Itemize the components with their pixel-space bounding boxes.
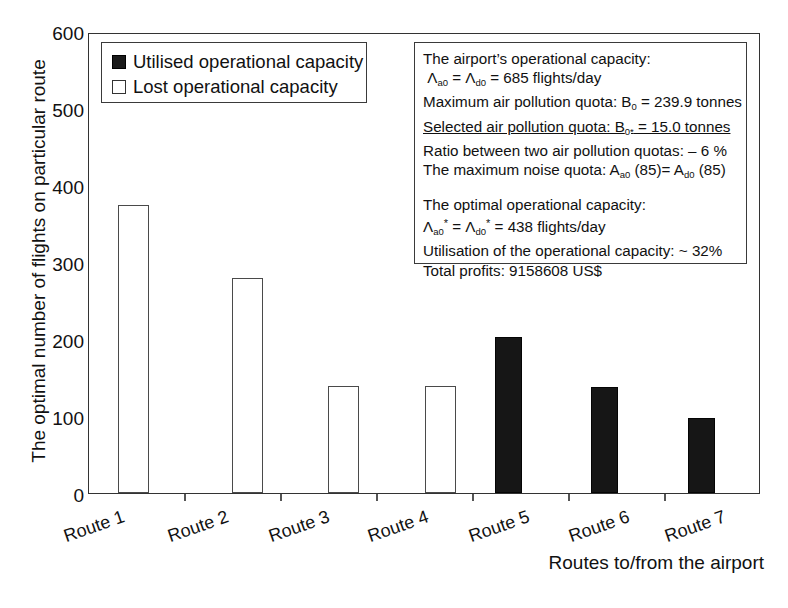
legend-item-utilised[interactable]: Utilised operational capacity	[112, 49, 366, 74]
subscript-a0: a0	[437, 77, 448, 88]
subscript-opt-d0: d0	[475, 226, 486, 237]
legend-swatch-hollow-icon	[112, 80, 126, 94]
legend-item-lost[interactable]: Lost operational capacity	[112, 74, 366, 99]
cropped-page-header	[0, 0, 788, 11]
info-line-lambda-operational: Λa0 = Λd0 = 685 flights/day	[423, 68, 739, 92]
x-tick-label-route-2: Route 2	[165, 506, 231, 546]
subscript-0-star: 0*	[625, 125, 634, 136]
y-tick-label-500: 500	[24, 101, 84, 120]
superscript-star-d: *	[486, 217, 490, 229]
x-tick-label-route-5: Route 5	[466, 506, 532, 546]
bar-route-3[interactable]	[328, 386, 359, 493]
info-line-utilisation: Utilisation of the operational capacity:…	[423, 241, 739, 260]
bar-route-2[interactable]	[232, 278, 263, 493]
x-tick-label-route-4: Route 4	[365, 506, 431, 546]
info-line-lambda-optimal: Λa0* = Λd0* = 438 flights/day	[423, 214, 739, 241]
x-axis-title: Routes to/from the airport	[549, 552, 764, 574]
info-line-max-noise-quota: The maximum noise quota: Aa0 (85)= Ad0 (…	[423, 160, 739, 184]
info-box-spacer	[423, 184, 739, 195]
x-tick-mark-4	[472, 494, 474, 501]
info-line-airport-capacity-heading: The airport’s operational capacity:	[423, 49, 739, 68]
info-line-optimal-capacity-heading: The optimal operational capacity:	[423, 195, 739, 214]
x-tick-mark-6	[664, 494, 666, 501]
bar-route-1[interactable]	[118, 205, 149, 493]
legend-swatch-filled-icon	[112, 55, 126, 69]
y-tick-label-600: 600	[24, 24, 84, 43]
y-tick-label-100: 100	[24, 409, 84, 428]
bar-route-6[interactable]	[591, 387, 618, 493]
info-line-selected-pollution-quota: Selected air pollution quota: B0* = 15.0…	[423, 117, 739, 141]
subscript-opt-a0: a0	[433, 226, 444, 237]
x-tick-mark-3	[376, 494, 378, 501]
x-tick-mark-2	[280, 494, 282, 501]
y-tick-label-0: 0	[24, 486, 84, 505]
x-tick-label-route-6: Route 6	[566, 506, 632, 546]
subscript-0: 0	[632, 101, 637, 112]
subscript-d0: d0	[475, 77, 486, 88]
x-tick-mark-5	[568, 494, 570, 501]
y-axis-tick-labels: 600 500 400 300 200 100 0	[20, 0, 84, 608]
superscript-star-a: *	[444, 217, 448, 229]
subscript-noise-d0: d0	[684, 169, 695, 180]
y-tick-label-200: 200	[24, 332, 84, 351]
legend: Utilised operational capacity Lost opera…	[101, 42, 367, 103]
info-line-max-pollution-quota: Maximum air pollution quota: B0 = 239.9 …	[423, 92, 739, 116]
info-line-quota-ratio: Ratio between two air pollution quotas: …	[423, 141, 739, 160]
subscript-noise-a0: a0	[620, 169, 631, 180]
bar-route-4[interactable]	[425, 386, 456, 493]
x-tick-label-route-3: Route 3	[266, 506, 332, 546]
bar-route-7[interactable]	[688, 418, 715, 493]
x-tick-mark-1	[184, 494, 186, 501]
plot-area: Utilised operational capacity Lost opera…	[88, 33, 760, 494]
info-box: The airport’s operational capacity: Λa0 …	[414, 42, 747, 264]
info-line-total-profits: Total profits: 9158608 US$	[423, 261, 739, 280]
legend-label-utilised: Utilised operational capacity	[133, 51, 363, 73]
y-tick-label-300: 300	[24, 255, 84, 274]
x-tick-label-route-7: Route 7	[662, 506, 728, 546]
legend-label-lost: Lost operational capacity	[133, 76, 338, 98]
bar-route-5[interactable]	[495, 337, 522, 493]
y-tick-label-400: 400	[24, 178, 84, 197]
